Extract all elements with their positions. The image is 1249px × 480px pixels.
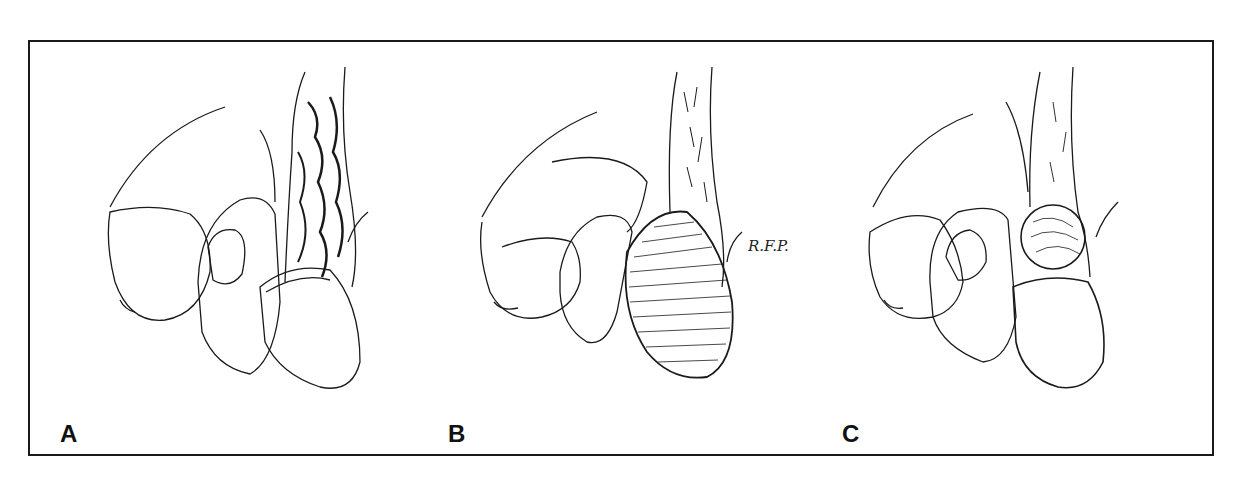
panel-b: R.F.P. B xyxy=(422,42,817,454)
panel-a: A xyxy=(30,42,425,454)
panel-label-b: B xyxy=(448,420,465,448)
figure-frame: A xyxy=(28,40,1214,456)
spermatocele-illustration xyxy=(818,42,1213,454)
panel-label-c: C xyxy=(842,420,859,448)
varicocele-illustration xyxy=(30,42,425,454)
panel-c: C xyxy=(818,42,1213,454)
artist-signature: R.F.P. xyxy=(748,237,789,255)
panel-label-a: A xyxy=(60,420,77,448)
